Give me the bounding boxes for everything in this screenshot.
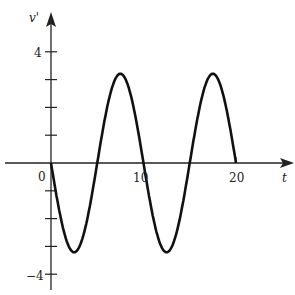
x-axis-label: t	[282, 171, 287, 185]
chart: v' t 0 10 20 4 −4	[0, 0, 295, 295]
y-tick-label-4: 4	[34, 46, 42, 60]
x-tick-label-20: 20	[229, 171, 244, 185]
origin-label: 0	[38, 170, 46, 184]
x-tick-label-10: 10	[133, 171, 148, 185]
y-axis-label: v'	[29, 11, 39, 25]
y-tick-label-neg4: −4	[26, 269, 44, 283]
